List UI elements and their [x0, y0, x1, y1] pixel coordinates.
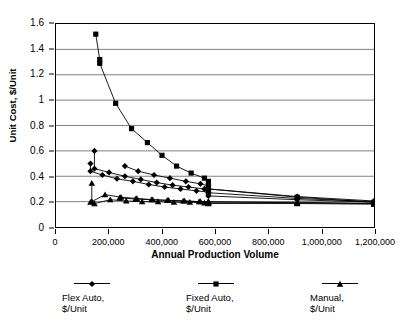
legend-marker-square-icon: [186, 278, 292, 290]
data-point-triangle: [337, 281, 344, 287]
y-tick-mark: [49, 74, 54, 75]
series-line: [96, 34, 374, 202]
x-tick-mark: [375, 229, 376, 234]
data-point-diamond: [135, 168, 141, 174]
legend-label-line2: $/Unit: [62, 303, 168, 314]
data-series-layer: [56, 24, 374, 227]
data-point-triangle: [107, 196, 114, 202]
y-tick-label: 0.8: [30, 121, 44, 131]
x-tick-label: 200,000: [92, 237, 125, 247]
data-point-square: [129, 126, 134, 131]
x-tick-mark: [108, 229, 109, 234]
data-point-triangle: [102, 191, 109, 197]
data-point-diamond: [122, 163, 128, 169]
data-point-diamond: [122, 173, 128, 179]
y-tick-label: 1.6: [30, 18, 44, 28]
y-tick-label: 1.2: [30, 69, 44, 79]
data-point-square: [145, 140, 150, 145]
data-point-diamond: [91, 148, 97, 154]
legend-marker-triangle-icon: [310, 278, 412, 290]
chart-figure: Unit Cost, $/Unit 00.20.40.60.811.21.41.…: [0, 0, 412, 326]
data-point-diamond: [106, 169, 112, 175]
x-tick-label: 600,000: [199, 237, 232, 247]
y-tick-label: 0.2: [30, 197, 44, 207]
legend-entry-square[interactable]: Fixed Auto,$/Unit: [186, 278, 292, 314]
y-tick-label: 1.4: [30, 44, 44, 54]
legend-label-line1: Flex Auto,: [62, 292, 168, 303]
x-tick-mark: [55, 229, 56, 234]
legend-symbol-square: [210, 278, 222, 290]
data-point-diamond: [146, 181, 152, 187]
x-tick-label: 0: [52, 237, 57, 247]
x-tick-label: 800,000: [252, 237, 285, 247]
data-point-square: [113, 101, 118, 106]
data-point-diamond: [197, 181, 203, 187]
data-point-diamond: [138, 176, 144, 182]
y-tick-mark: [49, 23, 54, 24]
legend-entry-triangle[interactable]: Manual,$/Unit: [310, 278, 412, 314]
data-point-square: [159, 153, 164, 158]
series-line: [94, 151, 374, 202]
data-point-diamond: [130, 178, 136, 184]
data-point-diamond: [99, 172, 105, 178]
x-axis-title-text: Annual Production Volume: [151, 249, 279, 260]
data-point-square: [189, 171, 194, 176]
data-point-square: [206, 186, 211, 191]
legend-symbol-diamond: [86, 278, 98, 290]
x-tick-label: 1,200,000: [355, 237, 395, 247]
legend-label-line2: $/Unit: [186, 303, 292, 314]
x-axis-title: Annual Production Volume: [55, 249, 375, 260]
y-tick-mark: [49, 228, 54, 229]
data-point-diamond: [89, 281, 95, 287]
data-point-square: [213, 281, 218, 286]
y-tick-label: 0.6: [30, 146, 44, 156]
x-tick-mark: [268, 229, 269, 234]
y-tick-mark: [49, 48, 54, 49]
y-tick-mark: [49, 202, 54, 203]
data-point-square: [206, 179, 211, 184]
legend-label-line1: Fixed Auto,: [186, 292, 292, 303]
legend-marker-diamond-icon: [62, 278, 168, 290]
y-tick-label: 1: [38, 95, 44, 105]
data-point-diamond: [151, 172, 157, 178]
data-point-diamond: [167, 175, 173, 181]
y-tick-label: 0: [38, 223, 44, 233]
data-point-diamond: [162, 184, 168, 190]
data-point-square: [93, 32, 98, 37]
data-point-square: [174, 164, 179, 169]
legend-label-line2: $/Unit: [310, 303, 412, 314]
data-point-square: [295, 195, 300, 200]
y-tick-mark: [49, 99, 54, 100]
legend-label-line1: Manual,: [310, 292, 412, 303]
data-point-triangle: [88, 180, 95, 186]
y-tick-label: 0.4: [30, 172, 44, 182]
x-axis-ticks: 0200,000400,000600,000800,0001,000,0001,…: [55, 229, 375, 251]
data-point-diamond: [193, 188, 199, 194]
y-tick-mark: [49, 176, 54, 177]
data-point-diamond: [87, 160, 93, 166]
data-point-square: [97, 61, 102, 66]
x-tick-mark: [215, 229, 216, 234]
data-point-diamond: [154, 180, 160, 186]
plot-area: [55, 23, 375, 228]
y-axis-ticks: 00.20.40.60.811.21.41.6: [0, 16, 52, 235]
x-tick-label: 1,000,000: [302, 237, 342, 247]
legend-entry-diamond[interactable]: Flex Auto,$/Unit: [62, 278, 168, 314]
y-tick-mark: [49, 125, 54, 126]
y-tick-mark: [49, 151, 54, 152]
legend-symbol-triangle: [334, 278, 346, 290]
x-tick-mark: [322, 229, 323, 234]
data-point-diamond: [114, 176, 120, 182]
chart-legend: Flex Auto,$/UnitFixed Auto,$/UnitManual,…: [62, 278, 402, 322]
data-point-diamond: [183, 178, 189, 184]
x-tick-mark: [162, 229, 163, 234]
x-tick-label: 400,000: [145, 237, 178, 247]
